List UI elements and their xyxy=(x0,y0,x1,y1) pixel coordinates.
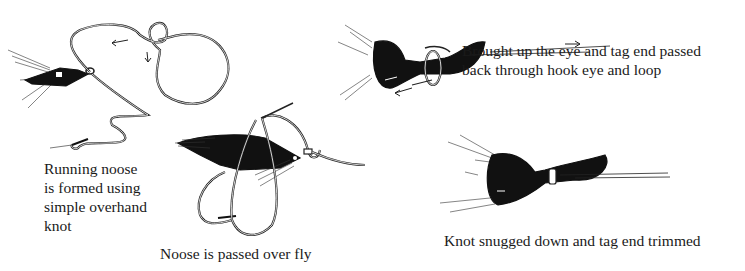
step1-caption: Running noose is formed using simple ove… xyxy=(44,159,147,235)
step3-caption: Brought up the eye and tag end passed ba… xyxy=(462,41,701,79)
step2-caption: Noose is passed over fly xyxy=(160,244,312,263)
step2-illustration xyxy=(175,103,365,235)
step1-illustration xyxy=(8,23,228,149)
step4-caption: Knot snugged down and tag end trimmed xyxy=(444,231,701,250)
step4-illustration xyxy=(440,135,670,212)
